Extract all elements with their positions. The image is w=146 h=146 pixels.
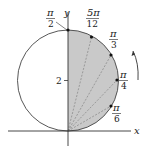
label-pi-3: π 3 — [109, 28, 118, 50]
rotation-arrow-icon — [132, 51, 139, 80]
svg-text:π: π — [109, 28, 117, 39]
label-pi-2: π 2 — [46, 7, 55, 29]
label-5pi-12: 5π 12 — [86, 7, 100, 29]
svg-text:5π: 5π — [87, 7, 100, 18]
svg-text:12: 12 — [87, 19, 98, 29]
y-axis-label: y — [63, 7, 70, 18]
svg-text:π: π — [46, 7, 54, 18]
polar-diagram: x y 2 π 2 5π 12 π 3 π 4 π 6 — [0, 0, 146, 146]
leader-line — [56, 22, 67, 30]
svg-text:6: 6 — [114, 114, 120, 124]
svg-text:2: 2 — [48, 19, 54, 29]
svg-text:π: π — [119, 69, 127, 80]
svg-text:π: π — [112, 102, 120, 113]
label-pi-4: π 4 — [119, 69, 128, 91]
svg-text:3: 3 — [111, 40, 117, 50]
y-tick-label: 2 — [56, 76, 62, 86]
label-pi-6: π 6 — [112, 102, 121, 124]
x-axis-label: x — [134, 125, 140, 136]
svg-text:4: 4 — [121, 81, 127, 91]
